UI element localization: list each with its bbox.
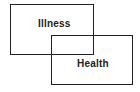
illness-label: Illness — [38, 18, 71, 29]
health-label: Health — [77, 58, 109, 69]
